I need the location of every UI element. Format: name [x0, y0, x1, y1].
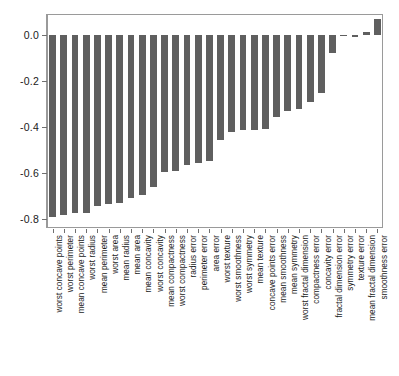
- bar: [273, 35, 280, 118]
- x-axis-label: worst perimeter: [67, 235, 75, 292]
- bar: [374, 19, 381, 34]
- x-tick-mark: [221, 229, 222, 233]
- bar: [60, 35, 67, 215]
- figure-root: 0.0-0.2-0.4-0.6-0.8 worst concave points…: [0, 0, 399, 376]
- x-tick-mark: [198, 229, 199, 233]
- x-axis-label: mean concavity: [145, 235, 153, 293]
- y-axis: 0.0-0.2-0.4-0.6-0.8: [0, 0, 47, 376]
- bar: [105, 35, 112, 204]
- x-axis-label: mean fractal dimension: [369, 235, 377, 321]
- x-axis-label: mean concave points: [78, 235, 86, 313]
- bar: [139, 35, 146, 195]
- x-axis-label: concave points error: [269, 235, 277, 310]
- bar: [128, 35, 135, 198]
- x-tick-mark: [310, 229, 311, 233]
- bar: [184, 35, 191, 166]
- y-tick-label: -0.6: [20, 168, 39, 179]
- x-axis-label: worst symmetry: [246, 235, 254, 293]
- bar: [363, 32, 370, 35]
- x-tick-mark: [344, 229, 345, 233]
- x-axis-label: worst compactness: [179, 235, 187, 306]
- bar: [340, 35, 347, 37]
- x-tick-mark: [321, 229, 322, 233]
- bar: [161, 35, 168, 172]
- bar: [284, 35, 291, 111]
- x-tick-mark: [131, 229, 132, 233]
- bar: [228, 35, 235, 132]
- y-tick-label: -0.4: [20, 122, 39, 133]
- x-axis-label: concavity error: [325, 235, 333, 289]
- x-axis-label: worst radius: [89, 235, 97, 280]
- bar: [318, 35, 325, 93]
- x-tick-mark: [97, 229, 98, 233]
- bar: [251, 35, 258, 130]
- x-tick-mark: [299, 229, 300, 233]
- x-tick-mark: [64, 229, 65, 233]
- bar: [150, 35, 157, 187]
- bar: [329, 35, 336, 53]
- x-tick-mark: [377, 229, 378, 233]
- x-axis-label: perimeter error: [201, 235, 209, 290]
- x-tick-mark: [142, 229, 143, 233]
- x-axis-label: compactness error: [313, 235, 321, 304]
- x-axis-label: worst texture: [224, 235, 232, 283]
- bar: [307, 35, 314, 102]
- bar: [116, 35, 123, 203]
- bar: [195, 35, 202, 163]
- bar: [262, 35, 269, 129]
- bar: [83, 35, 90, 214]
- x-axis-label: fractal dimension error: [336, 235, 344, 318]
- x-tick-mark: [86, 229, 87, 233]
- x-axis-label: mean compactness: [168, 235, 176, 307]
- x-tick-mark: [209, 229, 210, 233]
- x-axis-label: mean symmetry: [291, 235, 299, 294]
- x-tick-mark: [176, 229, 177, 233]
- x-tick-mark: [333, 229, 334, 233]
- x-axis-label: worst concavity: [157, 235, 165, 292]
- x-axis-label: mean area: [134, 235, 142, 275]
- x-axis-label: mean texture: [257, 235, 265, 283]
- x-axis-label: smoothness error: [381, 235, 389, 300]
- x-tick-mark: [187, 229, 188, 233]
- x-axis-label: worst area: [112, 235, 120, 274]
- bar: [296, 35, 303, 110]
- x-tick-mark: [277, 229, 278, 233]
- x-axis-label: worst fractal dimension: [302, 235, 310, 320]
- x-axis-label: worst concave points: [56, 235, 64, 312]
- y-tick-label: 0.0: [24, 29, 39, 40]
- bar: [206, 35, 213, 161]
- x-tick-mark: [120, 229, 121, 233]
- y-tick-label: -0.8: [20, 214, 39, 225]
- x-tick-mark: [53, 229, 54, 233]
- x-tick-mark: [75, 229, 76, 233]
- x-axis-label: mean perimeter: [101, 235, 109, 293]
- x-tick-mark: [355, 229, 356, 233]
- x-axis-label: mean smoothness: [280, 235, 288, 303]
- x-axis-label: texture error: [358, 235, 366, 280]
- x-tick-mark: [243, 229, 244, 233]
- bar: [172, 35, 179, 171]
- bar: [72, 35, 79, 214]
- x-axis-label: mean radius: [123, 235, 131, 281]
- x-axis-label: area error: [213, 235, 221, 271]
- x-tick-mark: [109, 229, 110, 233]
- x-tick-mark: [153, 229, 154, 233]
- bar: [240, 35, 247, 131]
- bar: [94, 35, 101, 206]
- bar: [49, 35, 56, 218]
- x-tick-mark: [288, 229, 289, 233]
- x-axis-label: radius error: [190, 235, 198, 277]
- x-axis-label: worst smoothness: [235, 235, 243, 302]
- bar: [217, 35, 224, 140]
- x-tick-mark: [366, 229, 367, 233]
- bar: [352, 35, 359, 37]
- x-tick-mark: [232, 229, 233, 233]
- x-tick-mark: [265, 229, 266, 233]
- x-tick-mark: [254, 229, 255, 233]
- y-tick-label: -0.2: [20, 75, 39, 86]
- x-axis-label: symmetry error: [347, 235, 355, 291]
- x-tick-mark: [165, 229, 166, 233]
